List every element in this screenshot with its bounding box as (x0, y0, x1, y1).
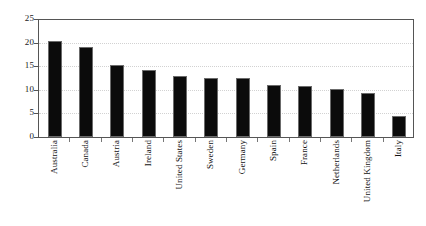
bar (173, 76, 187, 137)
bar (236, 78, 250, 137)
x-axis-category-label: Australia (49, 140, 59, 174)
gridline (39, 43, 413, 44)
x-axis-category-label: United Kingdom (362, 140, 372, 202)
x-axis-category-label: Austria (111, 140, 121, 167)
x-axis-category-label: Germany (237, 140, 247, 174)
bar (48, 41, 62, 137)
y-axis-tick-mark (34, 137, 38, 138)
bar (361, 93, 375, 137)
bar (267, 85, 281, 137)
gridline (39, 90, 413, 91)
y-axis-tick-label: 15 (12, 61, 34, 70)
y-axis-tick-mark (34, 19, 38, 20)
y-axis-tick-label: 10 (12, 85, 34, 94)
plot-frame-top-line (38, 19, 414, 20)
y-axis-tick-mark (34, 43, 38, 44)
x-axis-category-label: United States (174, 140, 184, 190)
y-axis-tick-mark (34, 66, 38, 67)
bar (204, 78, 218, 137)
x-axis-category-labels: AustraliaCanadaAustriaIrelandUnited Stat… (0, 140, 426, 226)
y-axis-tick-mark (34, 113, 38, 114)
plot-area (38, 19, 414, 137)
x-axis-category-label: Netherlands (331, 140, 341, 185)
x-axis-category-label: France (299, 140, 309, 165)
bar (142, 70, 156, 137)
bar-chart: 0510152025 AustraliaCanadaAustriaIreland… (0, 0, 426, 226)
x-axis-category-label: Italy (393, 140, 403, 157)
x-axis-category-label: Ireland (143, 140, 153, 166)
gridline (39, 113, 413, 114)
bar (79, 47, 93, 137)
gridline (39, 66, 413, 67)
x-axis-category-label: Canada (80, 140, 90, 168)
y-axis-tick-label: 25 (12, 14, 34, 23)
bar (110, 65, 124, 137)
bar (392, 116, 406, 137)
y-axis-tick-label: 5 (12, 108, 34, 117)
y-axis-tick-mark (34, 90, 38, 91)
bar (298, 86, 312, 137)
x-axis-category-label: Sweden (205, 140, 215, 169)
y-axis-tick-label: 20 (12, 38, 34, 47)
x-axis-category-label: Spain (268, 140, 278, 161)
bar (330, 89, 344, 137)
